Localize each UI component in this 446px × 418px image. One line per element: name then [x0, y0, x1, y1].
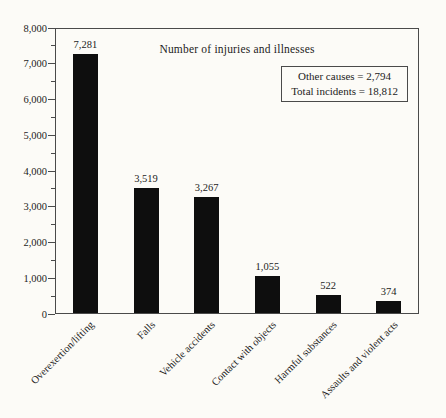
y-major-tick: [48, 171, 55, 172]
y-major-tick: [48, 314, 55, 315]
bar-4: [255, 276, 280, 313]
x-category-label: Falls: [135, 319, 158, 342]
bar-value-label: 374: [357, 285, 421, 298]
y-major-tick: [48, 278, 55, 279]
y-minor-tick: [51, 81, 55, 82]
y-tick-label: 4,000: [0, 165, 47, 178]
y-minor-tick: [51, 153, 55, 154]
y-minor-tick: [51, 188, 55, 189]
x-category-label: Vehicle accidents: [158, 319, 218, 379]
y-tick-label: 0: [0, 308, 47, 321]
y-minor-tick: [51, 260, 55, 261]
bar-5: [316, 295, 341, 313]
annotation-box: Other causes = 2,794 Total incidents = 1…: [281, 66, 408, 102]
bar-value-label: 7,281: [53, 38, 117, 51]
y-tick-label: 1,000: [0, 272, 47, 285]
bar-chart-figure: Number of injuries and illnesses Other c…: [0, 0, 446, 418]
bar-value-label: 3,267: [175, 181, 239, 194]
y-tick-label: 5,000: [0, 129, 47, 142]
y-tick-label: 2,000: [0, 236, 47, 249]
bar-2: [134, 188, 159, 313]
y-minor-tick: [51, 296, 55, 297]
bar-1: [73, 54, 98, 313]
bar-value-label: 3,519: [114, 172, 178, 185]
bar-6: [376, 301, 401, 313]
x-category-label: Harmful substances: [272, 319, 339, 386]
annotation-line-total-incidents: Total incidents = 18,812: [291, 84, 398, 99]
bar-value-label: 522: [296, 279, 360, 292]
y-minor-tick: [51, 117, 55, 118]
y-major-tick: [48, 242, 55, 243]
y-tick-label: 7,000: [0, 57, 47, 70]
bar-3: [194, 197, 219, 313]
x-category-label: Overexertion/lifting: [29, 319, 97, 387]
y-tick-label: 8,000: [0, 22, 47, 35]
annotation-line-other-causes: Other causes = 2,794: [291, 69, 398, 84]
y-major-tick: [48, 99, 55, 100]
y-major-tick: [48, 28, 55, 29]
y-tick-label: 3,000: [0, 200, 47, 213]
y-major-tick: [48, 206, 55, 207]
y-tick-label: 6,000: [0, 93, 47, 106]
bar-value-label: 1,055: [235, 260, 299, 273]
y-major-tick: [48, 63, 55, 64]
y-minor-tick: [51, 224, 55, 225]
x-category-label: Contact with objects: [209, 319, 279, 389]
y-major-tick: [48, 135, 55, 136]
